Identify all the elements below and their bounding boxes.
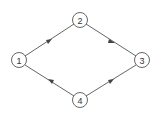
edge-1-2 bbox=[25, 24, 74, 56]
graph-svg: 1 2 3 4 bbox=[0, 0, 161, 118]
node-label: 3 bbox=[139, 56, 144, 66]
edges bbox=[25, 24, 136, 96]
node-label: 2 bbox=[77, 16, 82, 26]
arrowhead-icon bbox=[108, 39, 115, 43]
nodes: 1 2 3 4 bbox=[12, 13, 150, 108]
arrowhead-icon bbox=[46, 39, 52, 44]
edge-4-1 bbox=[25, 65, 74, 96]
node-label: 1 bbox=[16, 56, 21, 66]
node-label: 4 bbox=[77, 96, 82, 106]
node-1: 1 bbox=[12, 53, 27, 68]
arrowhead-icon bbox=[108, 79, 114, 84]
node-2: 2 bbox=[73, 13, 88, 28]
node-3: 3 bbox=[135, 53, 150, 68]
edge-4-3 bbox=[86, 65, 136, 96]
graph-diagram: 1 2 3 4 bbox=[0, 0, 161, 118]
node-4: 4 bbox=[73, 93, 88, 108]
edge-2-3 bbox=[86, 24, 136, 56]
